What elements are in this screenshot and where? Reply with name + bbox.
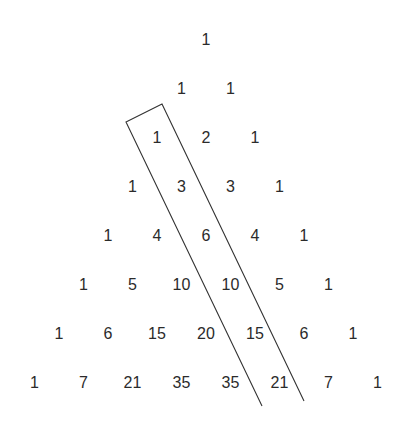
triangle-entry: 1 <box>226 81 235 97</box>
triangle-entry: 15 <box>246 326 264 342</box>
triangle-entry: 1 <box>275 179 284 195</box>
triangle-entry: 1 <box>153 130 162 146</box>
triangle-entry: 1 <box>300 228 309 244</box>
triangle-entry: 1 <box>202 32 211 48</box>
triangle-entry: 5 <box>128 277 137 293</box>
triangle-entry: 2 <box>202 130 211 146</box>
triangle-entry: 1 <box>104 228 113 244</box>
triangle-entry: 3 <box>177 179 186 195</box>
triangle-entry: 1 <box>177 81 186 97</box>
triangle-entry: 6 <box>202 228 211 244</box>
triangle-entry: 6 <box>300 326 309 342</box>
triangle-entry: 7 <box>324 375 333 391</box>
highlight-band-outline <box>126 104 304 406</box>
triangle-entry: 7 <box>79 375 88 391</box>
triangle-entry: 6 <box>104 326 113 342</box>
pascal-triangle-diagram: 1111211331146411510105116152015611721353… <box>0 0 393 426</box>
triangle-entry: 1 <box>349 326 358 342</box>
triangle-entry: 4 <box>153 228 162 244</box>
triangle-entry: 10 <box>173 277 191 293</box>
diagonal-highlight-band <box>0 0 393 426</box>
triangle-entry: 1 <box>128 179 137 195</box>
triangle-entry: 1 <box>30 375 39 391</box>
triangle-entry: 4 <box>251 228 260 244</box>
triangle-entry: 10 <box>222 277 240 293</box>
triangle-entry: 20 <box>197 326 215 342</box>
triangle-entry: 21 <box>271 375 289 391</box>
triangle-entry: 3 <box>226 179 235 195</box>
triangle-entry: 15 <box>148 326 166 342</box>
triangle-entry: 21 <box>124 375 142 391</box>
triangle-entry: 35 <box>222 375 240 391</box>
triangle-entry: 1 <box>251 130 260 146</box>
triangle-entry: 1 <box>324 277 333 293</box>
triangle-entry: 1 <box>79 277 88 293</box>
triangle-entry: 1 <box>55 326 64 342</box>
triangle-entry: 35 <box>173 375 191 391</box>
triangle-entry: 5 <box>275 277 284 293</box>
triangle-entry: 1 <box>373 375 382 391</box>
